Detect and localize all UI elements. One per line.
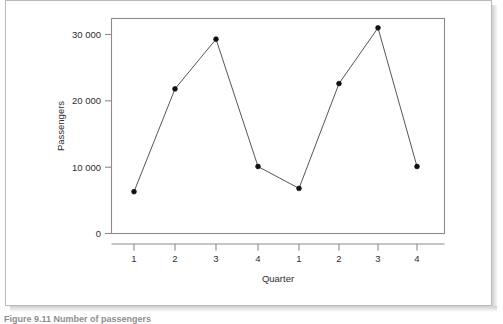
card-shadow-bottom xyxy=(10,306,497,312)
data-point[interactable] xyxy=(173,86,178,91)
series-line-passengers xyxy=(134,28,417,192)
x-axis-title: Quarter xyxy=(262,273,294,284)
data-point[interactable] xyxy=(337,81,342,86)
y-axis-title: Passengers xyxy=(55,101,66,151)
figure-card: 30 000 20 000 10 000 0 Passengers xyxy=(5,0,492,306)
data-point[interactable] xyxy=(376,25,381,30)
y-tick-label-10000: 10 000 xyxy=(72,162,101,173)
card-shadow-right xyxy=(492,5,498,309)
x-tick-label-7: 3 xyxy=(375,253,380,264)
figure-caption: Figure 9.11 Number of passengers xyxy=(4,314,424,324)
x-tick-label-4: 4 xyxy=(255,253,260,264)
y-tick-label-30000: 30 000 xyxy=(72,29,101,40)
x-tick-label-5: 1 xyxy=(296,253,301,264)
x-axis-ticks xyxy=(134,244,417,251)
x-tick-label-6: 2 xyxy=(336,253,341,264)
series-markers[interactable] xyxy=(132,25,420,194)
figure-page: 30 000 20 000 10 000 0 Passengers xyxy=(0,0,503,324)
y-axis-tick-labels: 30 000 20 000 10 000 0 xyxy=(72,29,101,239)
line-chart[interactable]: 30 000 20 000 10 000 0 Passengers xyxy=(6,1,493,307)
data-point[interactable] xyxy=(256,164,261,169)
y-tick-label-0: 0 xyxy=(96,228,101,239)
x-axis-tick-labels: 1 2 3 4 1 2 3 4 xyxy=(131,253,419,264)
plot-frame xyxy=(112,19,445,234)
x-tick-label-3: 3 xyxy=(213,253,218,264)
x-tick-label-8: 4 xyxy=(414,253,419,264)
data-point[interactable] xyxy=(214,37,219,42)
x-tick-label-1: 1 xyxy=(131,253,136,264)
data-point[interactable] xyxy=(297,186,302,191)
y-axis-ticks xyxy=(105,35,112,234)
x-tick-label-2: 2 xyxy=(172,253,177,264)
y-tick-label-20000: 20 000 xyxy=(72,95,101,106)
data-point[interactable] xyxy=(132,189,137,194)
data-point[interactable] xyxy=(415,164,420,169)
